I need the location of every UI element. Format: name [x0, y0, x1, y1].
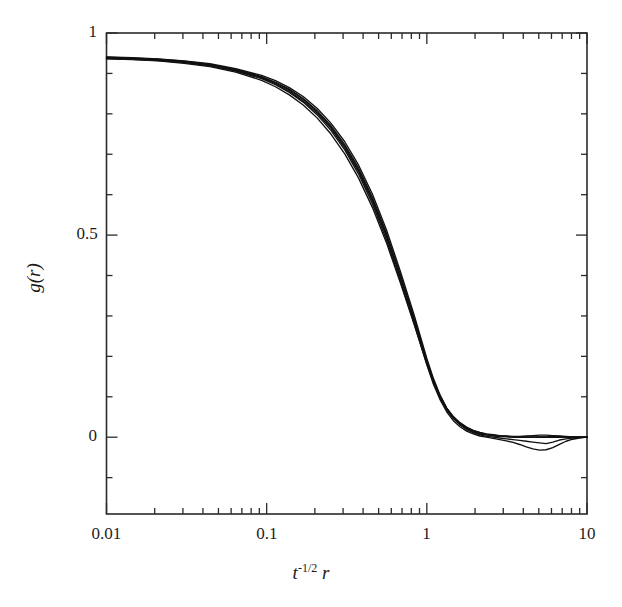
y-tick-label: 1 [89, 22, 98, 42]
y-axis-label-wrap: g(r) [14, 258, 104, 298]
x-axis-label-var: r [322, 562, 329, 583]
axis-ticks [107, 33, 588, 514]
chart-canvas [0, 0, 622, 607]
x-axis-label-exponent: -1/2 [298, 561, 317, 575]
y-tick-label: 0.5 [77, 224, 98, 244]
x-tick-label: 10 [579, 524, 596, 544]
x-tick-label: 1 [422, 524, 431, 544]
y-tick-label: 0 [89, 426, 98, 446]
figure-panel: g(r) t-1/2 r 0.010.111000.51 [0, 0, 622, 607]
x-axis-label: t-1/2 r [0, 561, 622, 584]
y-axis-label: g(r) [14, 233, 54, 323]
data-curves [107, 57, 588, 450]
x-tick-label: 0.1 [256, 524, 277, 544]
x-tick-label: 0.01 [92, 524, 122, 544]
plot-frame [107, 33, 588, 514]
